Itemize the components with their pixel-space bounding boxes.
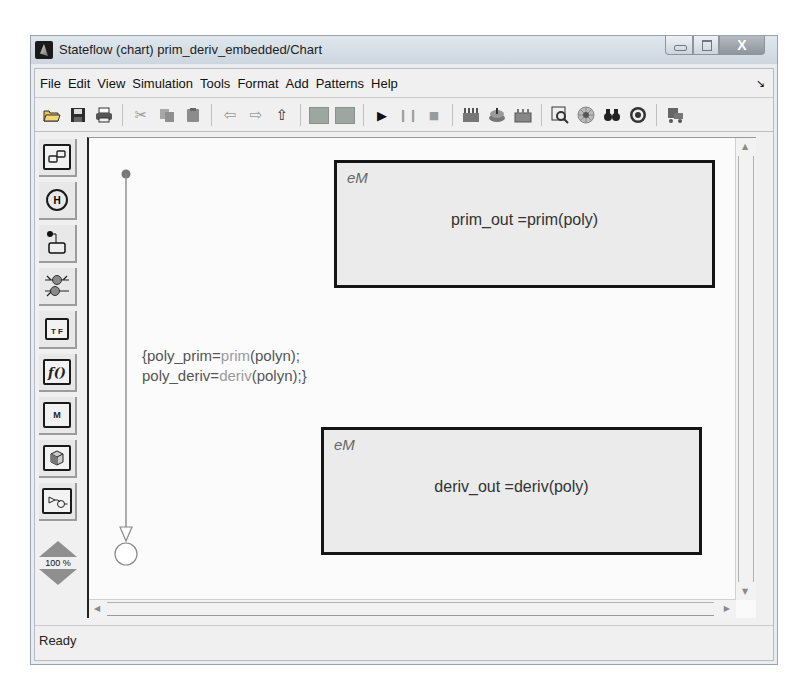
truth-table-tool-button[interactable]: T F	[39, 311, 77, 349]
zoom-level: 100 %	[39, 557, 77, 569]
connective-junction-tool-button[interactable]	[39, 268, 77, 306]
stateflow-window: Stateflow (chart) prim_deriv_embedded/Ch…	[30, 35, 778, 665]
scroll-down-arrow-icon[interactable]: ▼	[742, 587, 748, 596]
menu-edit[interactable]: Edit	[65, 76, 93, 91]
window-controls: X	[665, 36, 765, 56]
work-area: H T F f() M	[35, 133, 773, 624]
toolbar-separator	[122, 104, 123, 126]
print-icon[interactable]	[94, 105, 114, 125]
client-area: File Edit View Simulation Tools Format A…	[34, 68, 774, 661]
state-tag: eM	[347, 169, 368, 186]
maximize-button[interactable]	[693, 36, 719, 55]
model-explorer-icon[interactable]	[550, 105, 570, 125]
graphical-function-tool-button[interactable]: f()	[39, 354, 77, 392]
library-icon[interactable]	[335, 105, 355, 125]
transition-label[interactable]: {poly_prim=prim(polyn); poly_deriv=deriv…	[142, 346, 307, 386]
toolbar-separator	[211, 104, 212, 126]
matlab-function-icon: M	[43, 402, 71, 428]
target-icon[interactable]	[628, 105, 648, 125]
explorer-icon[interactable]	[309, 105, 329, 125]
vertical-scroll-track[interactable]	[738, 156, 754, 582]
save-icon[interactable]	[68, 105, 88, 125]
menu-patterns[interactable]: Patterns	[313, 76, 367, 91]
start-icon[interactable]: ▶	[372, 105, 392, 125]
simulink-function-tool-button[interactable]	[39, 483, 77, 521]
default-transition-tool-button[interactable]	[39, 225, 77, 263]
box-icon	[43, 445, 71, 471]
menu-file[interactable]: File	[37, 76, 64, 91]
chart-canvas-frame: {poly_prim=prim(polyn); poly_deriv=deriv…	[87, 137, 756, 618]
simulink-function-icon	[42, 488, 72, 514]
title-bar[interactable]: Stateflow (chart) prim_deriv_embedded/Ch…	[31, 36, 777, 64]
incremental-build-icon[interactable]	[513, 105, 533, 125]
toolbar-separator	[656, 104, 657, 126]
default-transition-icon	[45, 230, 69, 256]
forward-icon[interactable]: ⇨	[246, 105, 266, 125]
toolbar-separator	[363, 104, 364, 126]
matlab-logo-icon	[35, 41, 53, 59]
scroll-right-arrow-icon[interactable]: ▶	[724, 604, 730, 613]
window-title: Stateflow (chart) prim_deriv_embedded/Ch…	[59, 42, 322, 57]
menu-help[interactable]: Help	[368, 76, 401, 91]
chart-canvas[interactable]: {poly_prim=prim(polyn); poly_deriv=deriv…	[89, 138, 736, 600]
close-button[interactable]: X	[719, 36, 765, 55]
state-icon	[43, 144, 71, 170]
toolbar-separator	[541, 104, 542, 126]
paste-icon[interactable]	[183, 105, 203, 125]
menu-format[interactable]: Format	[234, 76, 281, 91]
copy-icon[interactable]	[157, 105, 177, 125]
status-bar: Ready	[35, 625, 773, 660]
history-junction-icon: H	[46, 189, 68, 211]
back-icon[interactable]: ⇦	[220, 105, 240, 125]
box-tool-button[interactable]	[39, 440, 77, 478]
open-icon[interactable]	[42, 105, 62, 125]
state-body: prim_out =prim(poly)	[337, 211, 712, 229]
scroll-up-arrow-icon[interactable]: ▲	[742, 142, 748, 151]
menu-tools[interactable]: Tools	[197, 76, 233, 91]
toolbar: ✂ ⇦ ⇨ ⇧ ▶ ❙❙ ■	[35, 99, 773, 132]
connective-junction-icon	[43, 272, 71, 300]
up-icon[interactable]: ⇧	[272, 105, 292, 125]
horizontal-scroll-track[interactable]	[107, 602, 714, 616]
dock-arrow-icon[interactable]: ↘	[756, 77, 765, 90]
horizontal-scrollbar[interactable]: ◀ ▶	[89, 599, 736, 618]
zoom-control: 100 %	[39, 541, 77, 585]
rebuild-icon[interactable]	[487, 105, 507, 125]
zoom-out-button[interactable]	[39, 569, 77, 585]
vertical-scrollbar[interactable]: ▲ ▼	[735, 138, 756, 600]
state-prim[interactable]: eM prim_out =prim(poly)	[334, 160, 715, 288]
toolbar-separator	[452, 104, 453, 126]
open-simulink-icon[interactable]	[665, 105, 685, 125]
history-junction-tool-button[interactable]: H	[39, 182, 77, 220]
status-text: Ready	[39, 633, 77, 648]
graphical-function-icon: f()	[43, 359, 71, 385]
menu-bar: File Edit View Simulation Tools Format A…	[35, 69, 773, 98]
scroll-left-arrow-icon[interactable]: ◀	[94, 604, 100, 613]
toolbar-separator	[300, 104, 301, 126]
pause-icon[interactable]: ❙❙	[398, 105, 418, 125]
stop-icon[interactable]: ■	[424, 105, 444, 125]
matlab-function-tool-button[interactable]: M	[39, 397, 77, 435]
find-icon[interactable]	[602, 105, 622, 125]
state-deriv[interactable]: eM deriv_out =deriv(poly)	[321, 427, 702, 555]
build-icon[interactable]	[461, 105, 481, 125]
menu-view[interactable]: View	[94, 76, 128, 91]
cut-icon[interactable]: ✂	[131, 105, 151, 125]
menu-simulation[interactable]: Simulation	[129, 76, 196, 91]
state-tool-button[interactable]	[39, 139, 77, 177]
truth-table-icon: T F	[45, 318, 69, 340]
minimize-button[interactable]	[665, 36, 693, 55]
state-body: deriv_out =deriv(poly)	[324, 478, 699, 496]
zoom-in-button[interactable]	[39, 541, 77, 557]
state-tag: eM	[334, 436, 355, 453]
object-palette: H T F f() M	[36, 139, 85, 618]
debugger-icon[interactable]	[576, 105, 596, 125]
menu-add[interactable]: Add	[283, 76, 312, 91]
